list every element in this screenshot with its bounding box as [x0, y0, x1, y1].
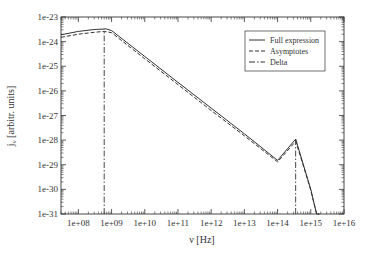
x-tick-label: 1e+14 [266, 218, 289, 228]
x-tick-label: 1e+09 [100, 218, 123, 228]
x-tick-label: 1e+15 [300, 218, 323, 228]
y-tick-label: 1e-31 [38, 209, 59, 219]
legend-entry: Delta [270, 58, 288, 67]
x-axis-label: ν [Hz] [189, 234, 214, 245]
y-tick-label: 1e-23 [38, 12, 59, 22]
x-tick-label: 1e+12 [200, 218, 223, 228]
x-tick-label: 1e+16 [333, 218, 356, 228]
y-tick-label: 1e-26 [38, 86, 59, 96]
x-tick-label: 1e+10 [133, 218, 156, 228]
y-axis-label: jν [arbitr. units] [5, 86, 18, 148]
legend-entry: Full expression [270, 36, 319, 45]
y-tick-label: 1e-25 [38, 61, 59, 71]
y-tick-label: 1e-29 [38, 160, 59, 170]
chart: 1e+081e+091e+101e+111e+121e+131e+141e+15… [0, 0, 368, 258]
y-tick-label: 1e-30 [38, 184, 59, 194]
y-tick-label: 1e-24 [38, 37, 59, 47]
x-tick-label: 1e+08 [67, 218, 90, 228]
legend: Full expressionAsymptotesDelta [245, 31, 325, 71]
y-tick-label: 1e-27 [38, 111, 59, 121]
x-tick-label: 1e+11 [167, 218, 189, 228]
y-tick-label: 1e-28 [38, 135, 59, 145]
legend-entry: Asymptotes [270, 47, 308, 56]
x-tick-label: 1e+13 [233, 218, 256, 228]
